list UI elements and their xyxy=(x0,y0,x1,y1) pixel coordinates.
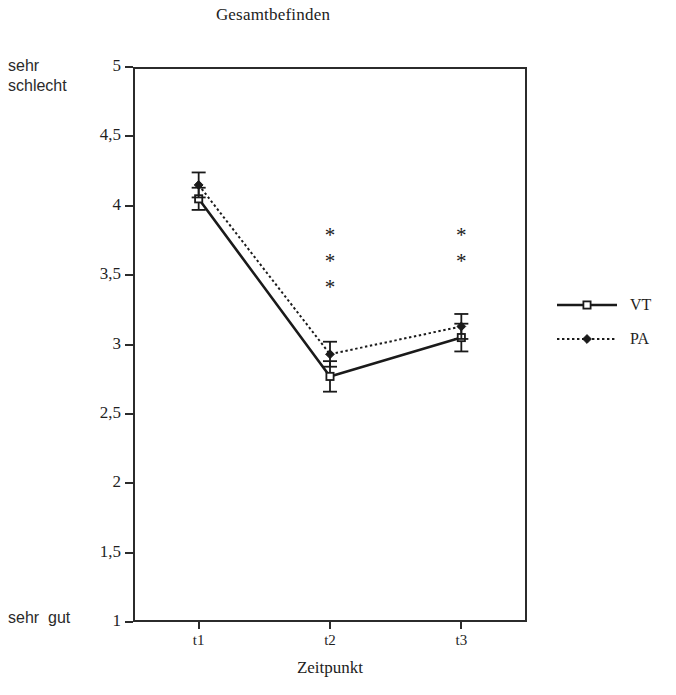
plot-data-layer xyxy=(133,67,527,622)
y-tick-label: 2 xyxy=(61,472,121,492)
significance-asterisk: * xyxy=(318,274,342,300)
y-tick-mark xyxy=(125,621,133,623)
y-tick-label: 1,5 xyxy=(61,542,121,562)
significance-asterisk: * xyxy=(318,248,342,274)
y-tick-mark xyxy=(125,66,133,68)
significance-asterisk: * xyxy=(449,222,473,248)
legend-item-pa[interactable]: PA xyxy=(556,322,672,356)
y-tick-label: 3 xyxy=(61,334,121,354)
y-tick-label: 3,5 xyxy=(61,264,121,284)
significance-t2: *** xyxy=(318,222,342,300)
legend-item-vt[interactable]: VT xyxy=(556,288,672,322)
chart-title: Gesamtbefinden xyxy=(0,5,546,25)
y-tick-mark xyxy=(125,274,133,276)
y-tick-mark xyxy=(125,344,133,346)
x-tick-label: t1 xyxy=(179,632,219,649)
y-tick-label: 1 xyxy=(61,611,121,631)
x-tick-label: t2 xyxy=(310,632,350,649)
marker-filled-diamond xyxy=(326,350,335,359)
y-tick-mark xyxy=(125,413,133,415)
legend-label: VT xyxy=(630,296,651,314)
chart-figure: Gesamtbefinden sehr schlecht sehr gut 11… xyxy=(0,0,676,695)
significance-asterisk: * xyxy=(318,222,342,248)
x-tick-mark xyxy=(460,622,462,629)
x-tick-mark xyxy=(198,622,200,629)
x-tick-label: t3 xyxy=(441,632,481,649)
y-tick-label: 5 xyxy=(61,56,121,76)
x-tick-mark xyxy=(329,622,331,629)
x-axis-title: Zeitpunkt xyxy=(133,658,527,678)
y-tick-mark xyxy=(125,135,133,137)
y-tick-mark xyxy=(125,205,133,207)
significance-asterisk: * xyxy=(449,248,473,274)
legend-marker-filled-diamond xyxy=(583,335,592,344)
legend-sample-pa-icon xyxy=(556,332,618,346)
marker-open-square xyxy=(326,373,333,380)
y-tick-mark xyxy=(125,552,133,554)
chart-legend: VTPA xyxy=(556,288,672,356)
significance-t3: ** xyxy=(449,222,473,274)
y-tick-label: 4 xyxy=(61,195,121,215)
legend-marker-open-square xyxy=(583,301,590,308)
legend-label: PA xyxy=(630,330,649,348)
legend-sample-vt-icon xyxy=(556,298,618,312)
y-tick-label: 2,5 xyxy=(61,403,121,423)
y-tick-mark xyxy=(125,482,133,484)
y-tick-label: 4,5 xyxy=(61,125,121,145)
